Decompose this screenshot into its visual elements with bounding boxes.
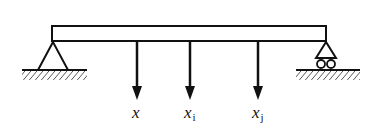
- label-xi: xi: [184, 104, 196, 123]
- load-arrow-xi: [185, 41, 195, 100]
- label-xi-subscript: i: [193, 111, 196, 123]
- label-xj-text: x: [252, 103, 260, 122]
- load-arrow-x: [132, 41, 142, 100]
- load-arrow-xj: [253, 41, 263, 100]
- pin-support: [22, 42, 87, 80]
- label-xj: xj: [252, 104, 264, 123]
- roller-support: [296, 42, 360, 80]
- label-xj-subscript: j: [261, 111, 264, 123]
- label-xi-text: x: [184, 103, 192, 122]
- label-x: x: [132, 104, 140, 121]
- beam: [52, 26, 326, 41]
- label-x-text: x: [132, 103, 140, 122]
